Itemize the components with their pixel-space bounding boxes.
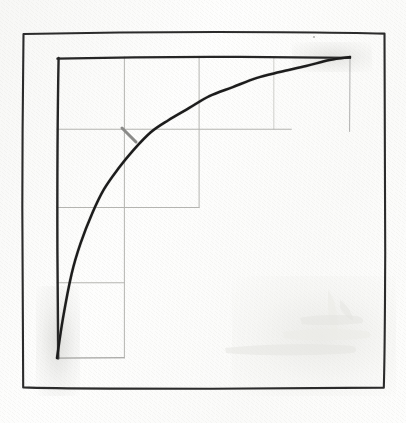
margin-dot bbox=[313, 36, 315, 38]
outer-frame-path bbox=[22, 32, 385, 389]
outer-frame bbox=[0, 0, 406, 423]
figure-canvas bbox=[0, 0, 406, 423]
